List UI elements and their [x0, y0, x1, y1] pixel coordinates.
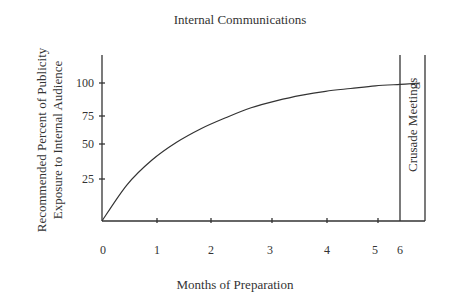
chart-title: Internal Communications [174, 12, 307, 27]
x-tick-5: 5 [372, 243, 378, 257]
y-axis [99, 55, 105, 221]
x-axis-label: Months of Preparation [177, 277, 294, 292]
x-tick-2: 2 [208, 243, 214, 257]
y-tick-50: 50 [82, 137, 94, 151]
y-tick-25: 25 [82, 172, 94, 186]
x-tick-4: 4 [324, 243, 330, 257]
y-tick-100: 100 [76, 76, 94, 90]
x-tick-3: 3 [267, 243, 273, 257]
x-tick-0: 0 [100, 243, 106, 257]
data-line [102, 83, 420, 221]
y-tick-labels: 100 75 50 25 [76, 76, 94, 186]
x-tick-labels: 0 1 2 3 4 5 6 [100, 243, 403, 257]
x-axis [102, 218, 425, 223]
y-axis-label-line2: Exposure to Internal Audience [50, 61, 65, 220]
x-tick-6: 6 [397, 243, 403, 257]
x-tick-1: 1 [154, 243, 160, 257]
y-tick-75: 75 [82, 109, 94, 123]
chart: Internal Communications Recommended Perc… [0, 0, 449, 299]
y-axis-label-line1: Recommended Percent of Publicity [34, 47, 49, 232]
crusade-meetings-label: Crusade Meetings [405, 78, 420, 172]
